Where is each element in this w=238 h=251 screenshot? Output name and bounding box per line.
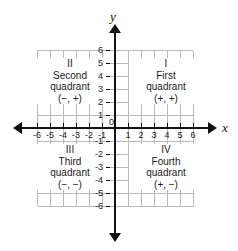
grid-cell — [116, 90, 129, 103]
y-axis-tick — [106, 50, 110, 51]
x-axis-label: x — [222, 121, 228, 134]
y-axis-tick-label: 2 — [91, 98, 103, 107]
x-axis-tick — [154, 123, 155, 127]
x-axis-tick-label: -5 — [43, 131, 57, 140]
quadrant-one-label: I First quadrant (+, +) — [129, 58, 203, 104]
grid-cell — [77, 194, 90, 207]
y-axis-tick-label: -2 — [91, 150, 103, 159]
y-axis-tick — [106, 76, 110, 77]
grid-cell — [116, 181, 129, 194]
grid-cell — [77, 103, 90, 116]
x-axis-tick — [167, 123, 168, 127]
grid-cell — [129, 103, 142, 116]
x-axis-tick — [89, 123, 90, 127]
grid-cell — [142, 103, 155, 116]
quadrant-four-signs: (+, −) — [129, 179, 203, 191]
y-axis-tick-label: -3 — [91, 163, 103, 172]
quadrant-one-word: quadrant — [129, 81, 203, 93]
grid-cell — [116, 64, 129, 77]
x-axis-line — [22, 127, 210, 129]
grid-cell — [181, 194, 194, 207]
y-axis-tick — [106, 89, 110, 90]
x-axis-tick — [180, 123, 181, 127]
grid-cell — [181, 103, 194, 116]
quadrant-one-roman: I — [129, 58, 203, 70]
x-axis-tick-label: -6 — [30, 131, 44, 140]
x-axis-tick — [128, 123, 129, 127]
quadrant-four-word: quadrant — [129, 167, 203, 179]
grid-cell — [64, 194, 77, 207]
x-axis-left-arrow-icon — [13, 122, 22, 134]
grid-cell — [155, 103, 168, 116]
y-axis-tick-label: -6 — [91, 202, 103, 211]
grid-cell — [51, 194, 64, 207]
x-axis-tick — [37, 123, 38, 127]
x-axis-right-arrow-icon — [208, 122, 217, 134]
x-axis-tick-label: 2 — [134, 131, 148, 140]
y-axis-tick-label: 6 — [91, 46, 103, 55]
quadrant-one-name: First — [129, 70, 203, 82]
quadrant-four-name: Fourth — [129, 156, 203, 168]
x-axis-tick-label: 1 — [121, 131, 135, 140]
y-axis-tick-label: 3 — [91, 85, 103, 94]
x-axis-tick-label: 3 — [147, 131, 161, 140]
grid-cell — [129, 194, 142, 207]
y-axis-tick — [106, 180, 110, 181]
origin-label: 0 — [104, 118, 114, 127]
x-axis-tick-label: -3 — [69, 131, 83, 140]
grid-cell — [142, 194, 155, 207]
grid-cell — [116, 155, 129, 168]
y-axis-up-arrow-icon — [109, 24, 121, 33]
grid-cell — [38, 194, 51, 207]
grid-cell — [116, 77, 129, 90]
grid-cell — [116, 168, 129, 181]
y-axis-tick — [106, 115, 110, 116]
grid-cell — [155, 194, 168, 207]
coordinate-plane-diagram: x y 0 II Second quadrant (−, +) I First … — [0, 0, 238, 251]
grid-cell — [38, 103, 51, 116]
y-axis-tick — [106, 102, 110, 103]
x-axis-tick — [193, 123, 194, 127]
y-axis-tick — [106, 63, 110, 64]
x-axis-tick — [102, 123, 103, 127]
x-axis-tick-label: 5 — [173, 131, 187, 140]
quadrant-one-signs: (+, +) — [129, 93, 203, 105]
y-axis-tick-label: -4 — [91, 176, 103, 185]
grid-cell — [168, 103, 181, 116]
grid-cell — [116, 194, 129, 207]
y-axis-tick-label: 1 — [91, 111, 103, 120]
y-axis-tick — [106, 193, 110, 194]
grid-cell — [64, 103, 77, 116]
y-axis-tick — [106, 206, 110, 207]
y-axis-tick — [106, 154, 110, 155]
y-axis-tick — [106, 167, 110, 168]
y-axis-tick-label: 5 — [91, 59, 103, 68]
x-axis-tick — [76, 123, 77, 127]
x-axis-tick-label: 4 — [160, 131, 174, 140]
y-axis-label: y — [110, 10, 116, 23]
x-axis-tick — [50, 123, 51, 127]
grid-cell — [116, 103, 129, 116]
quadrant-four-roman: IV — [129, 144, 203, 156]
y-axis-tick-label: -1 — [91, 137, 103, 146]
x-axis-tick-label: 6 — [186, 131, 200, 140]
x-axis-tick — [141, 123, 142, 127]
y-axis-down-arrow-icon — [109, 233, 121, 242]
x-axis-tick — [63, 123, 64, 127]
y-axis-tick-label: 4 — [91, 72, 103, 81]
grid-cell — [116, 142, 129, 155]
quadrant-four-label: IV Fourth quadrant (+, −) — [129, 144, 203, 190]
x-axis-tick-label: -4 — [56, 131, 70, 140]
grid-cell — [51, 103, 64, 116]
grid-cell — [116, 51, 129, 64]
grid-cell — [168, 194, 181, 207]
y-axis-tick — [106, 141, 110, 142]
y-axis-tick-label: -5 — [91, 189, 103, 198]
y-axis-line — [114, 32, 116, 235]
